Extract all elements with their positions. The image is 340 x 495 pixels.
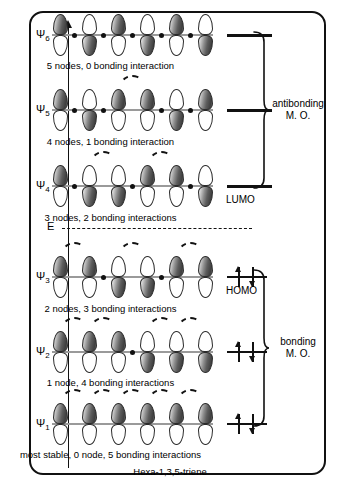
p-orbital-lower-lobe [111, 352, 126, 373]
electron-spin-up-head-icon [235, 266, 241, 272]
p-orbital-upper-lobe [198, 256, 213, 277]
node-dot [72, 184, 77, 189]
p-orbital-upper-lobe [53, 14, 68, 35]
p-orbital [140, 256, 155, 298]
p-orbital [198, 403, 213, 445]
p-orbital-lower-lobe [169, 110, 184, 131]
electron-spin-up-head-icon [235, 341, 241, 347]
p-orbital-lower-lobe [198, 110, 213, 131]
mo-caption-3: 2 nodes, 3 bonding interactions [0, 303, 221, 314]
p-orbital [140, 331, 155, 373]
p-orbital-upper-lobe [198, 403, 213, 424]
p-orbital-lower-lobe [198, 277, 213, 298]
p-orbital [53, 403, 68, 445]
p-orbital-lower-lobe [53, 424, 68, 445]
p-orbital-upper-lobe [82, 89, 97, 110]
p-orbital-lower-lobe [82, 277, 97, 298]
p-orbital-lower-lobe [140, 277, 155, 298]
p-orbital-lower-lobe [140, 352, 155, 373]
p-orbital-upper-lobe [169, 403, 184, 424]
p-orbital [140, 89, 155, 131]
p-orbital [53, 256, 68, 298]
p-orbital-upper-lobe [198, 89, 213, 110]
node-dot [101, 33, 106, 38]
psi-label-5: Ψ5 [36, 103, 50, 118]
p-orbital [82, 89, 97, 131]
p-orbital-upper-lobe [53, 403, 68, 424]
p-orbital-upper-lobe [111, 403, 126, 424]
mo-diagram-canvas: E Ψ65 nodes, 0 bonding interactionΨ54 no… [0, 0, 340, 495]
antibonding-label-line1: antibonding [272, 98, 324, 109]
p-orbital-upper-lobe [82, 403, 97, 424]
p-orbital-upper-lobe [169, 256, 184, 277]
p-orbital-upper-lobe [169, 14, 184, 35]
p-orbital-upper-lobe [82, 165, 97, 186]
p-orbital [53, 89, 68, 131]
p-orbital-lower-lobe [53, 35, 68, 56]
p-orbital [140, 165, 155, 207]
p-orbital-upper-lobe [111, 256, 126, 277]
p-orbital-lower-lobe [140, 35, 155, 56]
node-dot [72, 108, 77, 113]
psi-label-2: Ψ2 [36, 345, 50, 360]
p-orbital [198, 331, 213, 373]
p-orbital-upper-lobe [53, 256, 68, 277]
p-orbital [140, 14, 155, 56]
molecule-name: Hexa-1,3,5-triene [0, 466, 340, 477]
node-dot [188, 184, 193, 189]
psi-label-6: Ψ6 [36, 28, 50, 43]
mo-caption-6: 5 nodes, 0 bonding interaction [0, 60, 221, 71]
p-orbital-upper-lobe [82, 331, 97, 352]
p-orbital [169, 331, 184, 373]
p-orbital [169, 89, 184, 131]
carbon-chain-line [52, 423, 213, 425]
p-orbital-lower-lobe [82, 352, 97, 373]
p-orbital-upper-lobe [82, 14, 97, 35]
p-orbital [198, 256, 213, 298]
p-orbital-upper-lobe [53, 331, 68, 352]
p-orbital-upper-lobe [53, 165, 68, 186]
p-orbital-lower-lobe [140, 186, 155, 207]
node-dot [159, 33, 164, 38]
p-orbital-upper-lobe [53, 89, 68, 110]
p-orbital [169, 14, 184, 56]
node-dot [101, 275, 106, 280]
mo-caption-1: most stable, 0 node, 5 bonding interacti… [0, 449, 221, 460]
nonbonding-separator [62, 228, 252, 229]
frontier-orbital-tag-lumo: LUMO [226, 194, 255, 205]
p-orbital-lower-lobe [169, 424, 184, 445]
p-orbital-lower-lobe [169, 186, 184, 207]
p-orbital-lower-lobe [111, 35, 126, 56]
p-orbital-lower-lobe [111, 110, 126, 131]
psi-label-1: Ψ1 [36, 417, 50, 432]
p-orbital-upper-lobe [111, 331, 126, 352]
node-dot [159, 108, 164, 113]
p-orbital-lower-lobe [198, 352, 213, 373]
p-orbital-upper-lobe [169, 165, 184, 186]
p-orbital-upper-lobe [111, 165, 126, 186]
psi-label-3: Ψ3 [36, 270, 50, 285]
p-orbital-lower-lobe [53, 277, 68, 298]
bonding-label-line1: bonding [280, 336, 316, 347]
antibonding-label-line2: M. O. [286, 110, 310, 121]
p-orbital [82, 165, 97, 207]
node-dot [101, 108, 106, 113]
p-orbital [169, 256, 184, 298]
p-orbital [169, 165, 184, 207]
p-orbital-upper-lobe [111, 14, 126, 35]
p-orbital-upper-lobe [169, 331, 184, 352]
node-dot [72, 33, 77, 38]
p-orbital-lower-lobe [198, 186, 213, 207]
p-orbital [198, 14, 213, 56]
mo-caption-2: 1 node, 4 bonding interactions [0, 377, 221, 388]
psi-label-4: Ψ4 [36, 179, 50, 194]
p-orbital-lower-lobe [82, 186, 97, 207]
p-orbital-upper-lobe [140, 256, 155, 277]
p-orbital [111, 331, 126, 373]
mo-caption-4: 3 nodes, 2 bonding interactions [0, 212, 221, 223]
bonding-label-line2: M. O. [286, 348, 310, 359]
p-orbital-upper-lobe [198, 165, 213, 186]
node-dot [130, 33, 135, 38]
p-orbital [111, 14, 126, 56]
p-orbital [140, 403, 155, 445]
